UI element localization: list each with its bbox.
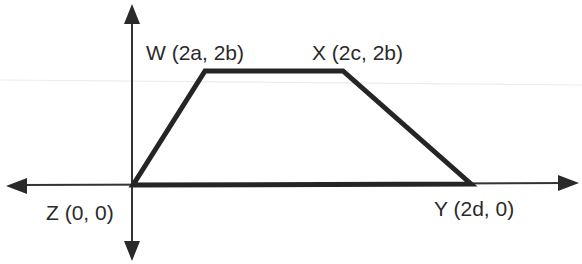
vertex-label-w: W (2a, 2b) [146,42,244,63]
x-axis-left-arrow-icon [6,178,27,194]
y-axis-up-arrow-icon [124,4,140,24]
y-axis [124,4,140,261]
y-axis-down-arrow-icon [124,241,140,261]
diagram-canvas: W (2a, 2b) X (2c, 2b) Y (2d, 0) Z (0, 0) [0,0,582,264]
x-axis-right-arrow-icon [558,175,579,191]
vertex-label-z: Z (0, 0) [46,202,114,223]
vertex-label-x: X (2c, 2b) [312,42,403,63]
scan-artifact-line [0,80,582,85]
trapezoid-wxyz [133,71,471,185]
vertex-label-y: Y (2d, 0) [434,198,514,219]
coordinate-plane [0,0,582,264]
